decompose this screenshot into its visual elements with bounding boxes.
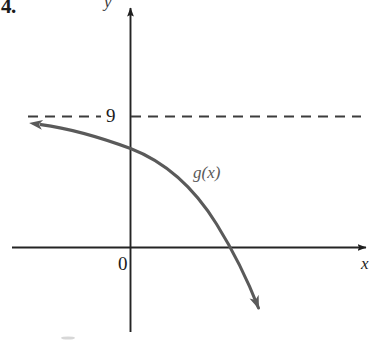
- asymptote-value-label: 9: [106, 106, 116, 125]
- problem-number: 4.: [1, 0, 16, 17]
- curve-label: g(x): [193, 164, 220, 181]
- function-curve-gx: [41, 125, 259, 308]
- x-axis-label: x: [361, 255, 369, 272]
- y-axis-label: y: [104, 0, 112, 10]
- exponential-decay-figure: 4. y x 9 0 g(x): [0, 0, 385, 353]
- origin-label: 0: [118, 254, 128, 273]
- scan-artifact-mark: [61, 336, 75, 339]
